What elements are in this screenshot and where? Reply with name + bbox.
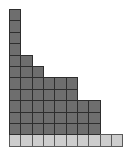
stack-cell [88,112,100,124]
stack-cell [9,20,21,32]
base-cell [111,134,123,146]
stack-cell [9,32,21,44]
stack-cell [66,77,78,89]
stack-cell [9,9,21,21]
stack-cell [88,100,100,112]
block-diagram [9,9,123,146]
